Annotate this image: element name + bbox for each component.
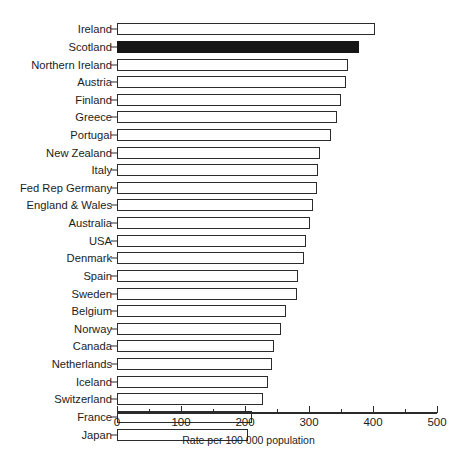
x-axis-major-tick xyxy=(117,406,118,413)
bar-row: Denmark xyxy=(0,250,457,268)
category-label-northern-ireland: Northern Ireland xyxy=(31,59,112,71)
x-axis-tick-label: 200 xyxy=(235,416,254,429)
x-axis-major-tick xyxy=(181,406,182,413)
category-label-ireland: Ireland xyxy=(78,23,112,35)
bar-italy xyxy=(117,164,318,176)
x-axis-title: Rate per 100 000 population xyxy=(0,434,457,446)
category-label-belgium: Belgium xyxy=(72,305,112,317)
x-axis-minor-tick xyxy=(341,409,342,413)
bar-row: Italy xyxy=(0,161,457,179)
bar-finland xyxy=(117,94,341,106)
bar-northern-ireland xyxy=(117,59,348,71)
bar-row: Norway xyxy=(0,320,457,338)
bar-norway xyxy=(117,323,281,335)
bar-row: England & Wales xyxy=(0,197,457,215)
category-label-switzerland: Switzerland xyxy=(54,393,112,405)
bar-row: Switzerland xyxy=(0,391,457,409)
bar-row: Austria xyxy=(0,73,457,91)
bar-canada xyxy=(117,340,274,352)
bar-row: Scotland xyxy=(0,38,457,56)
bar-australia xyxy=(117,217,310,229)
bar-row: Northern Ireland xyxy=(0,56,457,74)
category-label-usa: USA xyxy=(89,235,112,247)
x-axis-minor-tick xyxy=(149,409,150,413)
category-label-finland: Finland xyxy=(75,94,112,106)
bar-row: France xyxy=(0,408,457,426)
bar-portugal xyxy=(117,129,331,141)
x-axis-tick-label: 300 xyxy=(299,416,318,429)
category-label-scotland: Scotland xyxy=(68,41,112,53)
bar-new-zealand xyxy=(117,147,320,159)
x-axis-tick-label: 500 xyxy=(427,416,446,429)
x-axis-major-tick xyxy=(309,406,310,413)
bar-row: Australia xyxy=(0,214,457,232)
x-axis-tick-label: 0 xyxy=(114,416,120,429)
bar-row: Iceland xyxy=(0,373,457,391)
x-axis-minor-tick xyxy=(405,409,406,413)
bar-denmark xyxy=(117,252,304,264)
category-label-iceland: Iceland xyxy=(76,376,112,388)
category-label-australia: Australia xyxy=(68,217,112,229)
category-label-canada: Canada xyxy=(73,340,112,352)
category-label-new-zealand: New Zealand xyxy=(46,147,112,159)
bar-chart: IrelandScotlandNorthern IrelandAustriaFi… xyxy=(0,0,457,462)
category-label-fed-rep-germany: Fed Rep Germany xyxy=(20,182,112,194)
x-axis-minor-tick xyxy=(277,409,278,413)
category-label-denmark: Denmark xyxy=(67,252,112,264)
category-label-austria: Austria xyxy=(77,76,112,88)
x-axis-major-tick xyxy=(245,406,246,413)
x-axis-minor-tick xyxy=(213,409,214,413)
bar-fed-rep-germany xyxy=(117,182,317,194)
bar-belgium xyxy=(117,305,286,317)
category-label-france: France xyxy=(77,411,112,423)
plot-area: IrelandScotlandNorthern IrelandAustriaFi… xyxy=(0,0,457,462)
bar-row: Ireland xyxy=(0,21,457,39)
bar-usa xyxy=(117,235,306,247)
bar-row: Spain xyxy=(0,267,457,285)
category-label-greece: Greece xyxy=(75,111,112,123)
bar-row: Fed Rep Germany xyxy=(0,179,457,197)
bar-switzerland xyxy=(117,393,263,405)
bar-row: Finland xyxy=(0,91,457,109)
bar-spain xyxy=(117,270,298,282)
category-label-england-wales: England & Wales xyxy=(27,199,112,211)
bar-iceland xyxy=(117,376,268,388)
x-axis-major-tick xyxy=(437,406,438,413)
category-label-italy: Italy xyxy=(91,164,112,176)
x-axis-major-tick xyxy=(373,406,374,413)
bar-greece xyxy=(117,111,337,123)
bar-netherlands xyxy=(117,358,272,370)
bar-row: New Zealand xyxy=(0,144,457,162)
x-axis-title-text: Rate per 100 000 population xyxy=(182,434,315,446)
bar-ireland xyxy=(117,23,375,35)
bar-sweden xyxy=(117,288,297,300)
bar-england-wales xyxy=(117,199,313,211)
category-label-norway: Norway xyxy=(74,323,112,335)
x-axis-tick-label: 100 xyxy=(171,416,190,429)
bar-scotland xyxy=(117,41,359,53)
bar-row: Sweden xyxy=(0,285,457,303)
bar-row: Greece xyxy=(0,109,457,127)
bar-row: Belgium xyxy=(0,302,457,320)
bar-row: USA xyxy=(0,232,457,250)
category-label-spain: Spain xyxy=(83,270,112,282)
x-axis-tick-label: 400 xyxy=(363,416,382,429)
category-label-sweden: Sweden xyxy=(72,288,112,300)
category-label-netherlands: Netherlands xyxy=(52,358,112,370)
bar-row: Portugal xyxy=(0,126,457,144)
bar-row: Canada xyxy=(0,338,457,356)
category-label-portugal: Portugal xyxy=(70,129,112,141)
bar-austria xyxy=(117,76,346,88)
bar-row: Netherlands xyxy=(0,355,457,373)
